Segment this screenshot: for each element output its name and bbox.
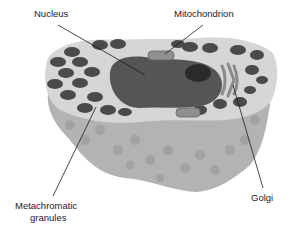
mitochondrion-top: [148, 51, 174, 60]
mast-cell-diagram: [0, 0, 291, 231]
mitochondrion-label: Mitochondrion: [174, 8, 234, 19]
mitochondrion-bottom: [176, 108, 200, 117]
metachromatic-label-line1: Metachromatic: [15, 200, 77, 211]
golgi-label: Golgi: [251, 192, 273, 203]
nucleolus: [185, 64, 211, 82]
nucleus-label: Nucleus: [34, 8, 68, 19]
metachromatic-label-line2: granules: [30, 212, 66, 223]
